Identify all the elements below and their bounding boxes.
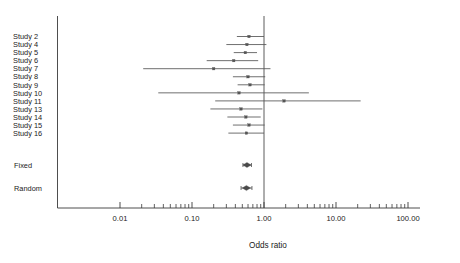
study-effect-marker xyxy=(245,116,248,119)
summary-label-text: Random xyxy=(14,184,42,193)
study-row: Study 2 xyxy=(13,32,264,41)
summary-row: Fixed xyxy=(14,161,251,170)
x-tick-label: 0.01 xyxy=(113,214,128,223)
study-effect-marker xyxy=(240,108,243,111)
study-row: Study 13 xyxy=(13,105,262,114)
summary-effect-marker xyxy=(243,162,251,167)
study-effect-marker xyxy=(238,92,241,95)
x-tick-label: 10.00 xyxy=(326,214,345,223)
study-row: Study 8 xyxy=(13,72,265,81)
summary-label-text: Fixed xyxy=(14,161,32,170)
study-row: Study 9 xyxy=(13,81,265,90)
study-row: Study 11 xyxy=(13,97,361,106)
x-axis-ticks xyxy=(120,202,408,208)
study-effect-marker xyxy=(249,84,252,87)
x-tick-label: 0.10 xyxy=(185,214,200,223)
summary-effect-marker xyxy=(242,185,250,190)
study-row: Study 15 xyxy=(13,121,265,130)
study-effect-marker xyxy=(246,43,249,46)
study-effect-marker xyxy=(244,51,247,54)
study-effect-marker xyxy=(247,76,250,79)
study-effect-marker xyxy=(232,59,235,62)
forest-plot-canvas: 0.010.101.0010.00100.00 Study 2Study 4St… xyxy=(0,0,460,263)
forest-plot: 0.010.101.0010.00100.00 Study 2Study 4St… xyxy=(0,0,460,263)
study-row: Study 5 xyxy=(13,48,257,57)
x-axis-title: Odds ratio xyxy=(249,241,287,250)
study-effect-marker xyxy=(248,35,251,38)
study-effect-marker xyxy=(248,124,251,127)
study-effect-marker xyxy=(212,67,215,70)
forest-rows: Study 2Study 4Study 5Study 6Study 7Study… xyxy=(13,32,361,193)
study-effect-marker xyxy=(283,100,286,103)
study-label-text: Study 16 xyxy=(13,129,42,138)
study-row: Study 14 xyxy=(13,113,261,122)
study-effect-marker xyxy=(245,132,248,135)
summary-row: Random xyxy=(14,184,252,193)
study-row: Study 16 xyxy=(13,129,264,138)
x-tick-label: 100.00 xyxy=(396,214,419,223)
x-tick-label: 1.00 xyxy=(257,214,272,223)
study-row: Study 7 xyxy=(13,64,270,73)
x-axis-tick-labels: 0.010.101.0010.00100.00 xyxy=(113,214,420,223)
study-row: Study 4 xyxy=(13,40,266,49)
study-row: Study 6 xyxy=(13,56,258,65)
